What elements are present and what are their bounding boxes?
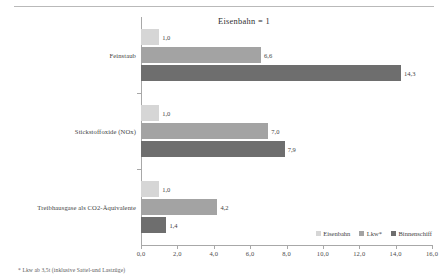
bar-row: 1,0 [141, 180, 432, 198]
x-axis-tick [177, 245, 178, 249]
x-axis-tick [396, 245, 397, 249]
bar-row: 7,0 [141, 122, 432, 140]
x-axis-tick [432, 245, 433, 249]
legend-item[interactable]: Binnenschiff [391, 230, 432, 237]
category-label: Treibhausgase als CO2-Äquivalente [37, 204, 136, 211]
bar-value-label: 14,3 [404, 70, 415, 77]
bar-group: Feinstaub1,06,614,3 [141, 28, 432, 82]
legend-label: Lkw* [367, 230, 382, 237]
bar-group: Treibhausgase als CO2-Äquivalente1,04,21… [141, 180, 432, 234]
bar-value-label: 1,0 [162, 186, 170, 193]
bar-value-label: 4,2 [220, 204, 228, 211]
legend-label: Binnenschiff [399, 230, 432, 237]
bar[interactable] [141, 181, 159, 197]
x-axis-tick [287, 245, 288, 249]
bar-value-label: 7,0 [271, 128, 279, 135]
bar-row: 1,0 [141, 28, 432, 46]
bar-value-label: 1,0 [162, 110, 170, 117]
bar-value-label: 6,6 [264, 52, 272, 59]
x-axis-tick-label: 2,0 [173, 250, 182, 257]
bar-chart-figure: Eisenbahn = 1 0,02,04,06,08,010,012,014,… [0, 0, 446, 280]
x-axis-tick [250, 245, 251, 249]
legend-item[interactable]: Eisenbahn [316, 230, 351, 237]
legend-item[interactable]: Lkw* [359, 230, 382, 237]
bar[interactable] [141, 47, 261, 63]
x-axis-tick [323, 245, 324, 249]
category-label: Stickstoffoxide (NOx) [75, 128, 136, 135]
x-axis-tick-label: 0,0 [137, 250, 146, 257]
x-axis-tick [141, 245, 142, 249]
x-axis-tick-label: 10,0 [317, 250, 329, 257]
legend-swatch-icon [316, 231, 321, 236]
bar-value-label: 1,0 [162, 34, 170, 41]
bar-value-label: 1,4 [169, 222, 177, 229]
x-axis-tick [214, 245, 215, 249]
bar-row: 14,3 [141, 64, 432, 82]
chart-footnote: * Lkw ab 3,5t (inklusive Sattel-und Last… [18, 267, 125, 273]
legend-swatch-icon [391, 231, 396, 236]
y-axis-tick [137, 169, 141, 170]
bar[interactable] [141, 65, 401, 81]
chart-legend: EisenbahnLkw*Binnenschiff [316, 230, 432, 237]
bar-row: 6,6 [141, 46, 432, 64]
bar-value-label: 7,9 [288, 146, 296, 153]
bar-row: 4,2 [141, 198, 432, 216]
bar-row: 1,0 [141, 104, 432, 122]
bar-row: 7,9 [141, 140, 432, 158]
x-axis-tick-label: 14,0 [390, 250, 402, 257]
bar[interactable] [141, 29, 159, 45]
chart-title: Eisenbahn = 1 [218, 17, 270, 26]
bar[interactable] [141, 199, 217, 215]
legend-label: Eisenbahn [323, 230, 350, 237]
x-axis-tick [359, 245, 360, 249]
bar[interactable] [141, 141, 285, 157]
y-axis-tick [137, 93, 141, 94]
bar[interactable] [141, 217, 166, 233]
bar[interactable] [141, 105, 159, 121]
bar-group: Stickstoffoxide (NOx)1,07,07,9 [141, 104, 432, 158]
x-axis-tick-label: 4,0 [209, 250, 218, 257]
bar[interactable] [141, 123, 268, 139]
x-axis-tick-label: 12,0 [353, 250, 365, 257]
x-axis-tick-label: 6,0 [246, 250, 255, 257]
legend-swatch-icon [359, 231, 364, 236]
x-axis-tick-label: 8,0 [282, 250, 291, 257]
x-axis-tick-label: 16,0 [426, 250, 438, 257]
category-label: Feinstaub [109, 52, 136, 59]
